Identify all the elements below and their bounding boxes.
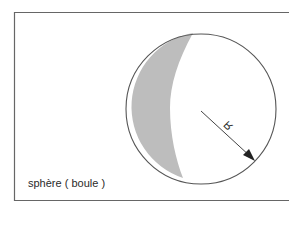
shaded-crescent (131, 33, 193, 178)
radius-arrow-line (201, 111, 251, 157)
caption: sphère ( boule ) (28, 177, 105, 189)
